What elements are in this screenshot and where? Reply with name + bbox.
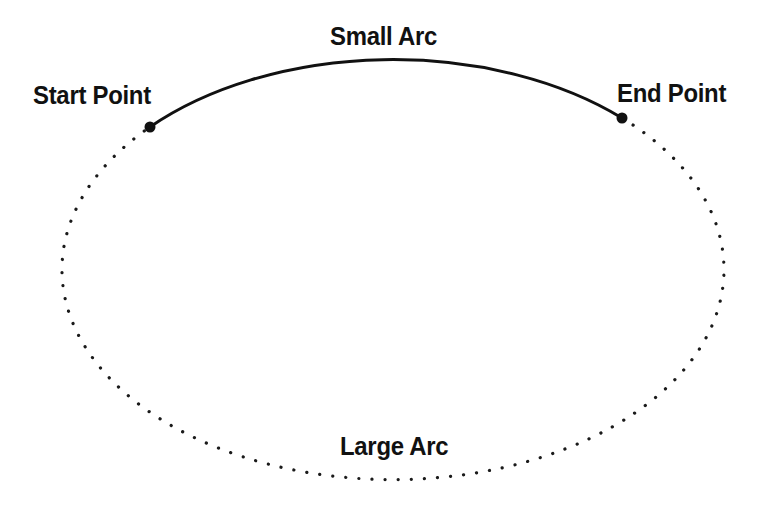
end-point-marker [617,113,628,124]
start-point-marker [145,122,156,133]
start-point-label: Start Point [33,82,151,108]
small-arc-label: Small Arc [330,23,437,49]
large-arc-label: Large Arc [340,433,448,459]
diagram-canvas: Start Point End Point Small Arc Large Ar… [0,0,758,519]
large-arc-path [62,118,724,480]
small-arc-path [150,60,622,127]
end-point-label: End Point [617,80,726,106]
